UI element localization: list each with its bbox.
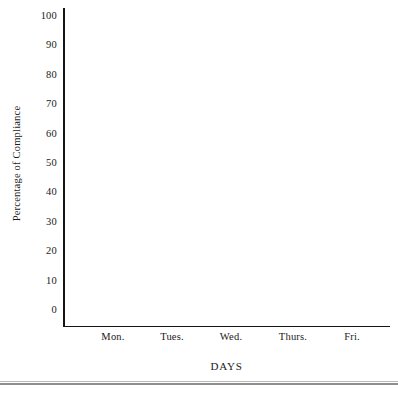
y-tick-label-90: 90 (17, 39, 57, 50)
y-tick-label-40: 40 (17, 186, 57, 197)
y-tick-label-80: 80 (17, 69, 57, 80)
x-axis-line (63, 326, 390, 328)
y-tick-label-50: 50 (17, 157, 57, 168)
y-tick-label-30: 30 (17, 216, 57, 227)
page-bottom-rule-line-lower (0, 383, 398, 385)
y-tick-label-10: 10 (17, 275, 57, 286)
y-tick-label-0: 0 (17, 304, 57, 315)
y-tick-label-60: 60 (17, 128, 57, 139)
x-axis-title: DAYS (63, 360, 390, 372)
plot-area (64, 8, 390, 325)
x-tick-label-wed: Wed. (196, 331, 266, 343)
compliance-chart-figure: Percentage of Compliance 100 90 80 70 60… (0, 0, 398, 394)
y-tick-label-70: 70 (17, 98, 57, 109)
x-tick-label-fri: Fri. (317, 331, 387, 343)
page-bottom-rule-line-upper (0, 381, 398, 382)
y-tick-label-100: 100 (17, 10, 57, 21)
page-bottom-rule (0, 381, 398, 385)
y-tick-label-20: 20 (17, 245, 57, 256)
